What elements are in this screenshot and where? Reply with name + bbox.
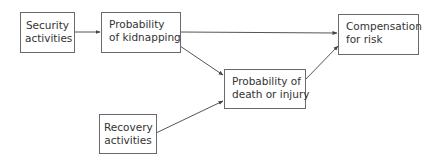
node-probability-of-death-or-injury: Probability of death or injury [224, 69, 306, 109]
node-label-line: Security [25, 19, 70, 32]
node-label-line: activities [104, 134, 152, 147]
node-label-line: Probability [109, 18, 173, 31]
edge-recovery-to-death [156, 101, 223, 133]
edge-death-to-compensation [305, 46, 338, 80]
node-security-activities: Security activities [20, 12, 75, 53]
node-label-line: death or injury [232, 88, 298, 101]
node-compensation-for-risk: Compensation for risk [338, 14, 419, 55]
node-label-line: of kidnapping [109, 31, 173, 44]
node-label-line: Recovery [104, 121, 152, 134]
node-label-line: for risk [346, 33, 411, 46]
node-recovery-activities: Recovery activities [99, 114, 157, 154]
diagram-canvas: Security activities Probability of kidna… [0, 0, 436, 164]
node-probability-of-kidnapping: Probability of kidnapping [101, 12, 181, 53]
node-label-line: Probability of [232, 75, 298, 88]
node-label-line: activities [25, 32, 70, 45]
edge-kidnapping-to-compensation [180, 32, 337, 33]
edge-kidnapping-to-death [180, 46, 223, 75]
node-label-line: Compensation [346, 20, 411, 33]
